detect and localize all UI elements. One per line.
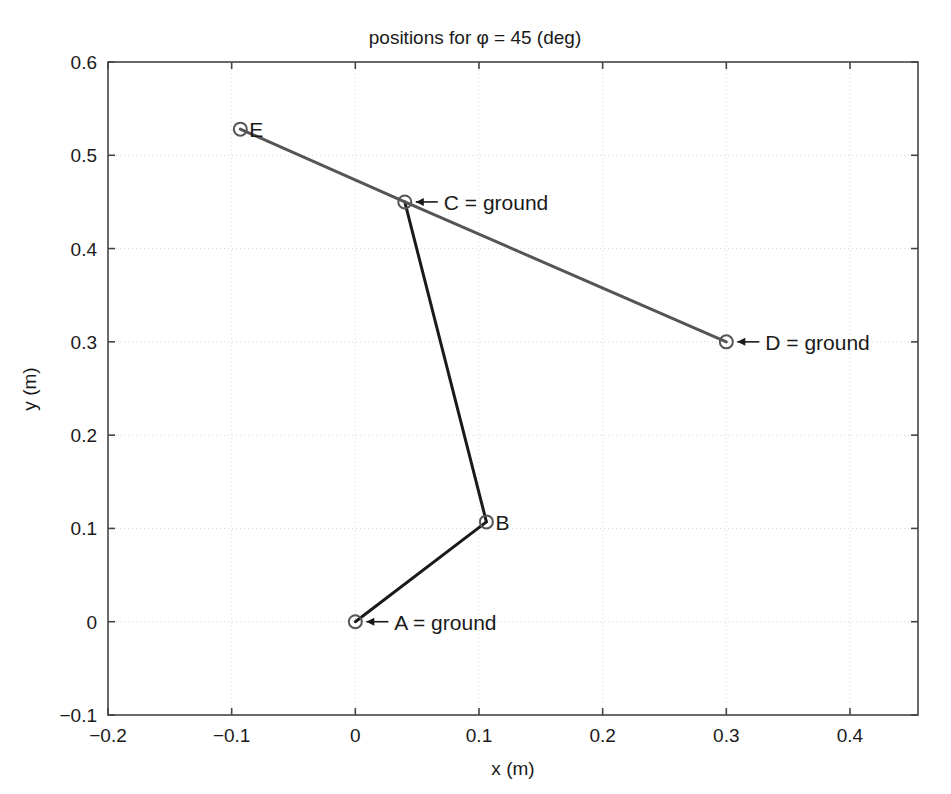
x-tick-label: 0.3 (713, 725, 739, 746)
joint-label-b: B (495, 511, 509, 534)
chart-title: positions for φ = 45 (deg) (369, 27, 581, 48)
y-tick-label: 0.5 (71, 145, 97, 166)
joint-label-c: C = ground (444, 191, 549, 214)
joint-label-e: E (249, 118, 263, 141)
y-tick-label: 0.4 (71, 239, 98, 260)
x-tick-label: −0.1 (213, 725, 251, 746)
x-tick-label: 0 (350, 725, 361, 746)
joint-label-d: D = ground (765, 331, 870, 354)
plot-background (0, 0, 951, 794)
y-tick-label: 0 (86, 612, 97, 633)
x-tick-label: 0.2 (589, 725, 615, 746)
y-tick-label: 0.6 (71, 52, 97, 73)
y-tick-label: −0.1 (59, 705, 97, 726)
x-tick-label: 0.1 (466, 725, 492, 746)
y-tick-label: 0.2 (71, 425, 97, 446)
y-tick-label: 0.1 (71, 518, 97, 539)
x-tick-label: 0.4 (837, 725, 864, 746)
x-tick-label: −0.2 (89, 725, 127, 746)
x-axis-label: x (m) (491, 758, 534, 779)
joint-label-a: A = ground (394, 611, 496, 634)
figure-canvas: positions for φ = 45 (deg) −0.2−0.100.10… (0, 0, 951, 794)
positions-plot: positions for φ = 45 (deg) −0.2−0.100.10… (0, 0, 951, 794)
y-tick-label: 0.3 (71, 332, 97, 353)
y-axis-label: y (m) (19, 367, 40, 410)
